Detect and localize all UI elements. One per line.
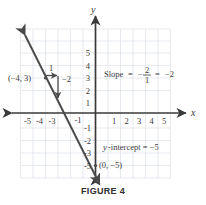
y-tick-label: 1	[86, 98, 90, 108]
point-marker-upper	[44, 76, 47, 79]
run-label: 1	[49, 63, 53, 73]
x-tick-label: -1	[74, 115, 81, 125]
y-tick-label: 2	[86, 86, 90, 96]
figure-caption: FIGURE 4	[0, 186, 206, 196]
x-tick-label: -4	[36, 116, 44, 126]
coordinate-plane: y x -5 -4 -3 -1 1 2 3 4 5 5 4 3 2 1 -1 -…	[0, 0, 206, 186]
x-tick-label: -5	[24, 116, 31, 126]
x-tick-label: 1	[112, 116, 116, 126]
x-tick-label: 4	[149, 116, 154, 126]
intercept-italic-y: y	[102, 142, 107, 152]
intercept-text: -intercept = −5	[108, 142, 159, 152]
y-tick-label: -5	[84, 161, 91, 171]
axis-lines	[12, 16, 186, 176]
y-tick-label: 5	[86, 48, 90, 58]
x-tick-label: 5	[162, 116, 166, 126]
slope-annotation: Slope = − 2 1 = −2	[104, 65, 174, 85]
y-tick-label: -1	[84, 123, 91, 133]
x-tick-label: 3	[137, 116, 141, 126]
slope-numerator: 2	[145, 65, 149, 75]
slope-negative-sign: −	[138, 69, 143, 79]
y-tick-label: -2	[84, 136, 91, 146]
point-marker-intercept	[94, 164, 97, 167]
point-label-upper: (−4, 3)	[8, 73, 31, 83]
y-tick-label: 3	[86, 73, 90, 83]
y-tick-label: -3	[84, 148, 91, 158]
slope-value: −2	[165, 69, 174, 79]
slope-equals-sign: =	[128, 69, 133, 79]
slope-word: Slope	[104, 69, 124, 79]
slope-denominator: 1	[145, 75, 149, 85]
x-axis-label: x	[190, 107, 196, 118]
graph-svg: y x -5 -4 -3 -1 1 2 3 4 5 5 4 3 2 1 -1 -…	[0, 0, 206, 186]
x-tick-label: 2	[124, 116, 128, 126]
slope-equals-sign-2: =	[155, 69, 160, 79]
x-tick-label: -3	[48, 116, 55, 126]
y-axis-label: y	[90, 4, 96, 15]
point-label-intercept: (0, −5)	[99, 160, 122, 170]
figure-container: y x -5 -4 -3 -1 1 2 3 4 5 5 4 3 2 1 -1 -…	[0, 0, 206, 205]
y-intercept-annotation: y -intercept = −5	[102, 142, 159, 152]
rise-label: −2	[62, 74, 71, 84]
